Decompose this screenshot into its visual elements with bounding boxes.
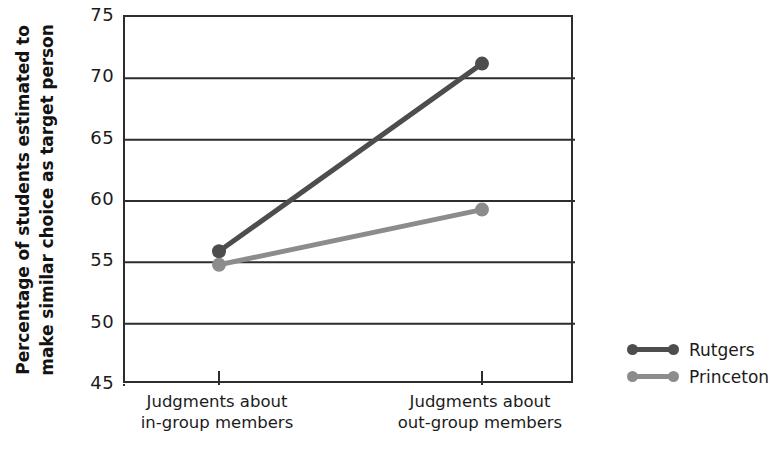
- series-rutgers: [212, 57, 489, 259]
- legend-swatch-princeton: [627, 369, 679, 385]
- y-tick-label-55: 55: [70, 249, 114, 270]
- y-tick-label-65: 65: [70, 127, 114, 148]
- chart-legend: Rutgers Princeton: [627, 336, 775, 390]
- y-tick-label-75: 75: [70, 4, 114, 25]
- series-line-rutgers: [219, 64, 482, 252]
- plot-svg: [123, 15, 577, 387]
- x-tick-label-in-group: Judgments about in-group members: [102, 391, 332, 434]
- legend-dot-right-princeton: [668, 371, 679, 382]
- y-axis-title: Percentage of students estimated to make…: [2, 0, 68, 400]
- y-tick-label-50: 50: [70, 311, 114, 332]
- y-axis-tick-labels: 75 70 65 60 55 50 45: [65, 0, 114, 400]
- gridlines: [125, 78, 575, 323]
- legend-label-princeton: Princeton: [689, 367, 769, 387]
- y-tick-label-45: 45: [70, 372, 114, 393]
- plot-area: [123, 15, 573, 383]
- legend-item-rutgers: Rutgers: [627, 336, 775, 363]
- legend-swatch-rutgers: [627, 342, 679, 358]
- y-axis-title-line-1: Percentage of students estimated to: [11, 24, 35, 375]
- data-point-rutgers-0: [212, 244, 226, 258]
- data-point-princeton-0: [212, 258, 226, 272]
- y-axis-title-line-2: make similar choice as target person: [35, 24, 59, 375]
- data-point-rutgers-1: [475, 57, 489, 71]
- y-tick-marks: [123, 17, 125, 385]
- data-point-princeton-1: [475, 203, 489, 217]
- data-series-layer: [212, 57, 489, 272]
- x-tick-marks: [219, 371, 482, 385]
- line-chart-figure: Percentage of students estimated to make…: [0, 0, 777, 459]
- legend-label-rutgers: Rutgers: [689, 340, 755, 360]
- y-tick-label-70: 70: [70, 65, 114, 86]
- legend-dot-right-rutgers: [668, 344, 679, 355]
- series-line-princeton: [219, 210, 482, 265]
- x-tick-label-out-group: Judgments about out-group members: [365, 391, 595, 434]
- y-tick-label-60: 60: [70, 188, 114, 209]
- legend-item-princeton: Princeton: [627, 363, 775, 390]
